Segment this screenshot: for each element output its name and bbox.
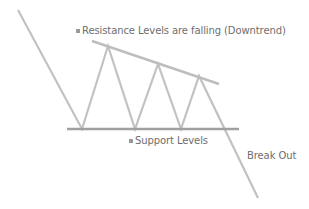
breakout-label: Break Out (247, 150, 296, 162)
resistance-label: Resistance Levels are falling (Downtrend… (76, 25, 286, 37)
resistance-label-text: Resistance Levels are falling (Downtrend… (82, 25, 286, 36)
support-label-text: Support Levels (135, 135, 208, 146)
resistance-trendline (92, 41, 219, 84)
breakout-label-text: Break Out (247, 150, 296, 161)
bullet-icon (129, 139, 133, 143)
price-path-line (18, 10, 258, 198)
support-label: Support Levels (129, 135, 208, 147)
bullet-icon (76, 29, 80, 33)
